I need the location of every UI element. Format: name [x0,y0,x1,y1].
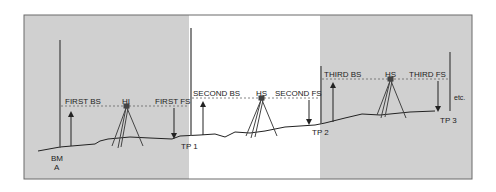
label-third-fs: THIRD FS [409,70,446,79]
label-third-bs: THIRD BS [324,70,361,79]
label-hs-2: HS [256,89,267,98]
label-second-bs: SECOND BS [193,89,240,98]
label-hi: HI [122,97,130,106]
label-tp2: TP 2 [312,128,329,137]
panel-third-setup [320,15,472,179]
label-etc: etc. [454,94,465,101]
label-bm-a: A [54,163,60,172]
label-hs-3: HS [385,70,396,79]
label-first-fs: FIRST FS [155,97,190,106]
label-tp3: TP 3 [440,116,457,125]
leveling-diagram: FIRST BS HI FIRST FS SECOND BS HS SECOND… [0,0,496,192]
label-tp1: TP 1 [181,142,198,151]
label-second-fs: SECOND FS [275,89,322,98]
label-first-bs: FIRST BS [65,97,101,106]
label-bm: BM [51,154,63,163]
